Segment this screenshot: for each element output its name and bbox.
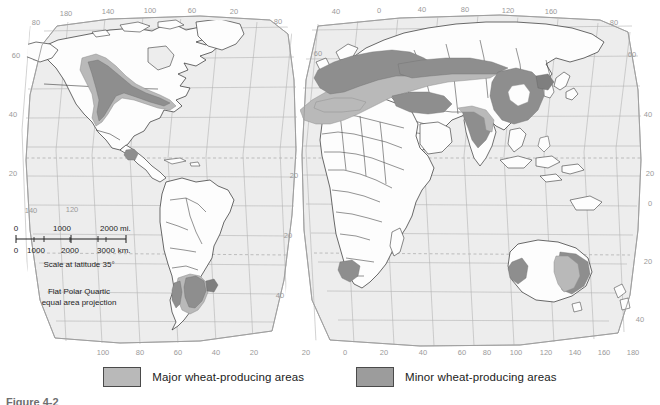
label-top-lon-e6: 160	[545, 7, 558, 16]
label-right-lat-20s: 20	[644, 257, 652, 266]
label-top-lon-e5: 120	[502, 6, 515, 15]
label-top-lon-e2: 0	[377, 6, 381, 15]
map-legend: Major wheat-producing areas Minor wheat-…	[0, 362, 660, 392]
label-bot-lon-e8: 120	[540, 348, 553, 357]
scale-km-unit: km.	[118, 246, 131, 255]
legend-entry-major: Major wheat-producing areas	[103, 367, 304, 387]
label-right-lat-60: 60	[628, 50, 636, 59]
label-top-lon-w3: 100	[144, 6, 157, 15]
label-bot-lon-w5: 20	[250, 348, 258, 357]
label-right-lat-40s: 40	[636, 315, 644, 324]
scale-mi-0: 0	[14, 224, 18, 233]
label-top-lon-e1: 40	[332, 7, 340, 16]
scale-bar	[14, 233, 136, 246]
world-wheat-map-figure: 180 140 100 60 20 80 80 60 40 20 140 120…	[0, 0, 660, 405]
label-bot-lon-e4: 40	[419, 348, 427, 357]
legend-swatch-minor	[356, 367, 394, 387]
label-left-lat-60: 60	[12, 51, 20, 60]
legend-swatch-major	[103, 367, 141, 387]
scale-km-1000: 1000	[27, 246, 45, 255]
label-right-lat-0: 0	[648, 199, 652, 208]
label-bot-lon-w4: 40	[212, 348, 220, 357]
scale-km-2000: 2000	[61, 246, 79, 255]
label-bot-lon-e2: 0	[343, 348, 347, 357]
figure-caption: Figure 4-2	[6, 396, 206, 405]
label-right-lat-40: 40	[644, 110, 652, 119]
projection-note-line1: Flat Polar Quartic	[14, 286, 144, 297]
label-bot-lon-e10: 160	[598, 348, 611, 357]
label-bot-lon-w1: 100	[97, 348, 110, 357]
label-bot-lon-e7: 100	[510, 348, 523, 357]
label-bot-lon-e9: 140	[569, 348, 582, 357]
label-top-lon-w2: 140	[102, 7, 115, 16]
projection-note: Flat Polar Quartic equal area projection	[14, 286, 144, 308]
label-top-lon-e4: 80	[461, 5, 469, 14]
label-bot-lon-w3: 60	[174, 348, 182, 357]
scale-mi-1000: 1000	[53, 224, 71, 233]
scale-km-labels: 0 1000 2000 3000 km.	[14, 246, 136, 257]
scale-latitude-note: Scale at latitude 35°	[14, 260, 144, 269]
label-left-lat-20: 20	[9, 169, 17, 178]
legend-label-major: Major wheat-producing areas	[152, 371, 304, 383]
eastern-hemisphere-lobe	[300, 15, 641, 346]
label-westinner-lat-20: 20	[290, 171, 298, 180]
label-top-lon-w4: 60	[188, 6, 196, 15]
label-bot-lon-e5: 60	[458, 348, 466, 357]
scale-km-3000: 3000	[97, 246, 115, 255]
label-westinner-lat-40: 40	[276, 291, 284, 300]
label-westinner-lat-20b: 20	[284, 231, 292, 240]
label-left-lon-140: 140	[25, 206, 38, 215]
label-bot-lon-e3: 20	[380, 348, 388, 357]
label-top-lon-w1: 180	[60, 9, 73, 18]
label-top-lon-w5: 20	[230, 7, 238, 16]
label-bot-lon-e1: 20	[302, 348, 310, 357]
label-right-lat-20: 20	[646, 169, 654, 178]
label-eastleft-lat-60: 60	[314, 49, 322, 58]
label-west-lat-80r: 80	[274, 17, 282, 26]
projection-note-line2: equal area projection	[14, 297, 144, 308]
label-left-lat-40: 40	[9, 110, 17, 119]
label-bot-lon-e6: 80	[483, 348, 491, 357]
scale-miles-labels: 0 1000 2000 mi.	[14, 224, 136, 233]
label-bot-lon-w2: 80	[136, 348, 144, 357]
scale-mi-unit: mi.	[120, 224, 131, 233]
label-bot-lon-e11: 180	[627, 348, 640, 357]
tasmania-landmass	[572, 302, 582, 312]
legend-entry-minor: Minor wheat-producing areas	[356, 367, 557, 387]
label-top-lon-e3: 40	[418, 5, 426, 14]
scale-and-projection-block: 0 1000 2000 mi. 0 1000 2000 3000 km. Sca…	[14, 224, 144, 308]
label-east-lat-80: 80	[610, 18, 618, 27]
legend-label-minor: Minor wheat-producing areas	[405, 371, 557, 383]
scale-km-0: 0	[14, 246, 18, 255]
label-west-lat-80: 80	[32, 18, 40, 27]
label-left-lon-120: 120	[66, 205, 79, 214]
scale-mi-2000: 2000	[100, 224, 118, 233]
